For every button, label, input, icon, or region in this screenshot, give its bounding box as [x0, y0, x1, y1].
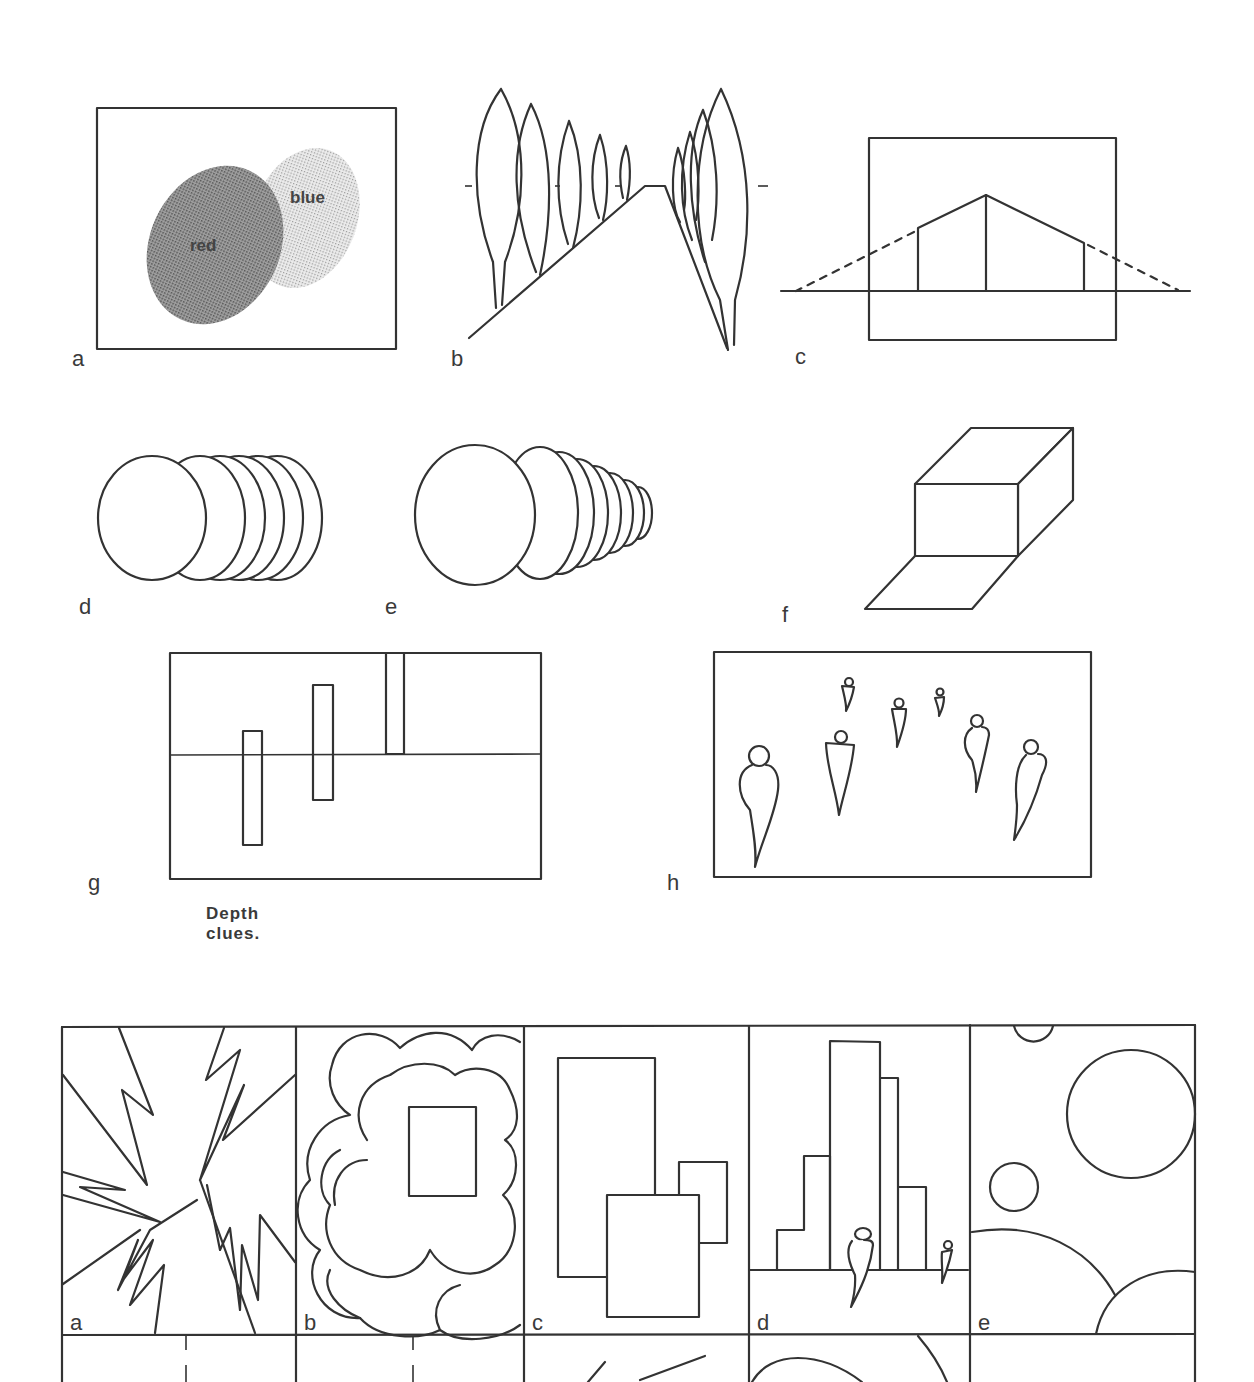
grid-label-a: a	[70, 1310, 82, 1336]
grid-label-d: d	[757, 1310, 769, 1336]
grid-label-c: c	[532, 1310, 543, 1336]
grid-label-e: e	[978, 1310, 990, 1336]
composition-grid-drawing	[0, 0, 1254, 1382]
grid-label-b: b	[304, 1310, 316, 1336]
